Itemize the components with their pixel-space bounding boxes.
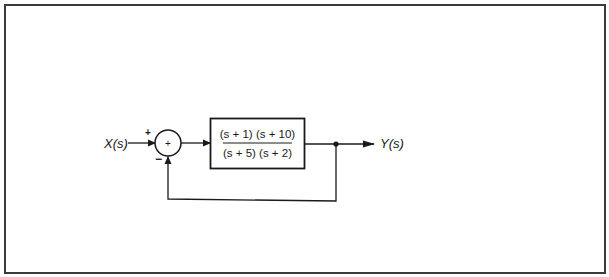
output-label: Y(s) xyxy=(380,136,404,151)
input-label: X(s) xyxy=(103,136,128,151)
block-diagram: X(s) + + − (s + 1) (s + 10) (s + 5) (s +… xyxy=(0,0,609,277)
transfer-function-denominator: (s + 5) (s + 2) xyxy=(223,147,292,159)
feedback-sign: − xyxy=(155,152,162,166)
summing-junction-symbol: + xyxy=(165,138,171,149)
transfer-function-numerator: (s + 1) (s + 10) xyxy=(220,128,296,140)
reference-sign: + xyxy=(145,127,151,138)
